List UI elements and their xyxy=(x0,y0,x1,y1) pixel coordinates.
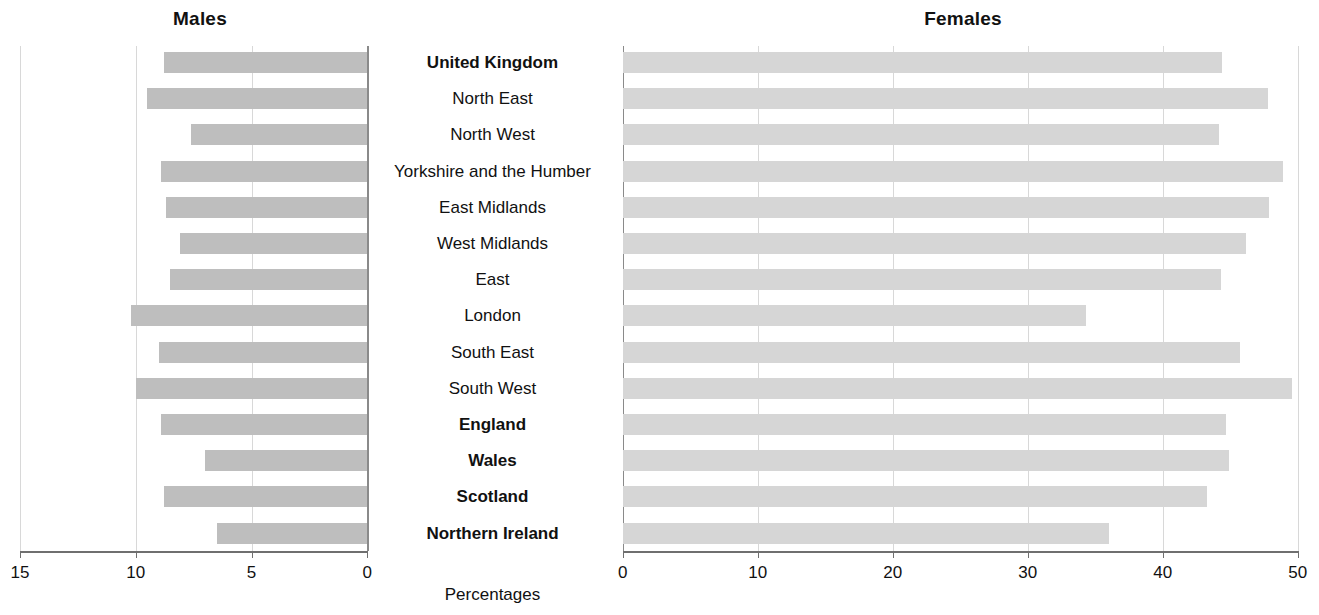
bar-female-wales xyxy=(623,450,1229,471)
category-label-united-kingdom: United Kingdom xyxy=(368,53,617,72)
category-label-north-west: North West xyxy=(368,125,617,144)
category-label-wales: Wales xyxy=(368,451,617,470)
bar-male-east-midlands xyxy=(166,197,367,218)
category-label-east-midlands: East Midlands xyxy=(368,198,617,217)
females-panel-title: Females xyxy=(873,8,1053,30)
bar-male-wales xyxy=(205,450,367,471)
axis-line-female xyxy=(623,551,1298,553)
tick-label-female-20: 20 xyxy=(883,563,902,583)
bar-female-north-east xyxy=(623,88,1268,109)
gridline-female-50 xyxy=(1298,46,1299,551)
bar-male-south-east xyxy=(159,342,367,363)
bar-female-east-midlands xyxy=(623,197,1270,218)
gridline-male-5 xyxy=(252,46,253,551)
tick-female-50 xyxy=(1298,551,1299,558)
bar-female-united-kingdom xyxy=(623,52,1222,73)
gridline-female-40 xyxy=(1163,46,1164,551)
bar-male-yorkshire-and-the-humber xyxy=(161,161,367,182)
category-label-north-east: North East xyxy=(368,89,617,108)
bar-male-england xyxy=(161,414,367,435)
axis-line-male xyxy=(20,551,367,553)
gridline-female-10 xyxy=(758,46,759,551)
bar-male-london xyxy=(131,305,367,326)
bar-male-northern-ireland xyxy=(217,523,367,544)
bar-female-england xyxy=(623,414,1226,435)
bar-male-scotland xyxy=(164,486,368,507)
tick-label-female-30: 30 xyxy=(1018,563,1037,583)
zero-line-female xyxy=(623,46,625,551)
bar-male-south-west xyxy=(136,378,368,399)
bar-female-east xyxy=(623,269,1221,290)
chart-container: Males Females 151050 01020304050 United … xyxy=(0,0,1319,615)
bar-female-west-midlands xyxy=(623,233,1247,254)
category-label-england: England xyxy=(368,415,617,434)
gridline-female-30 xyxy=(1028,46,1029,551)
bar-male-north-east xyxy=(147,88,367,109)
tick-label-female-40: 40 xyxy=(1153,563,1172,583)
category-label-east: East xyxy=(368,270,617,289)
bar-male-north-west xyxy=(191,124,367,145)
category-label-scotland: Scotland xyxy=(368,487,617,506)
males-plot-area: 151050 xyxy=(0,46,368,567)
tick-label-male-5: 5 xyxy=(247,563,256,583)
bar-male-east xyxy=(170,269,367,290)
category-label-west-midlands: West Midlands xyxy=(368,234,617,253)
category-label-south-east: South East xyxy=(368,343,617,362)
category-label-yorkshire-and-the-humber: Yorkshire and the Humber xyxy=(368,162,617,181)
bar-female-south-east xyxy=(623,342,1240,363)
gridline-male-10 xyxy=(136,46,137,551)
bar-female-yorkshire-and-the-humber xyxy=(623,161,1283,182)
bar-female-northern-ireland xyxy=(623,523,1109,544)
males-panel-title: Males xyxy=(110,8,290,30)
tick-label-female-50: 50 xyxy=(1288,563,1307,583)
bar-female-london xyxy=(623,305,1086,326)
tick-label-male-15: 15 xyxy=(11,563,30,583)
gridline-female-20 xyxy=(893,46,894,551)
tick-label-female-0: 0 xyxy=(618,563,627,583)
bar-male-united-kingdom xyxy=(164,52,368,73)
bar-female-north-west xyxy=(623,124,1220,145)
category-label-south-west: South West xyxy=(368,379,617,398)
category-label-column: United KingdomNorth EastNorth WestYorksh… xyxy=(368,46,617,567)
bar-male-west-midlands xyxy=(180,233,368,254)
axis-caption: Percentages xyxy=(368,585,617,605)
females-plot-area: 01020304050 xyxy=(617,46,1319,567)
bar-female-scotland xyxy=(623,486,1208,507)
bar-female-south-west xyxy=(623,378,1293,399)
tick-label-female-10: 10 xyxy=(748,563,767,583)
gridline-male-15 xyxy=(20,46,21,551)
tick-label-male-10: 10 xyxy=(126,563,145,583)
category-label-london: London xyxy=(368,306,617,325)
category-label-northern-ireland: Northern Ireland xyxy=(368,524,617,543)
